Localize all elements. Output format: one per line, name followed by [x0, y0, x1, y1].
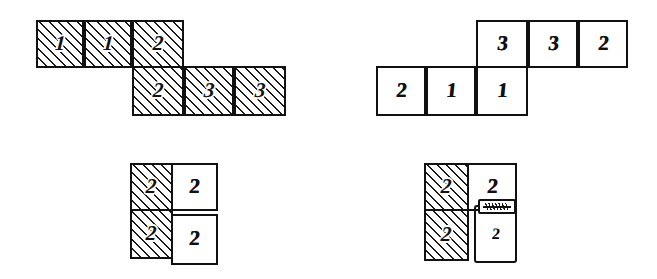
cell-top-right-r1c1: 1: [426, 66, 476, 116]
cell-value: 2: [597, 33, 610, 54]
cell-value: 2: [441, 176, 453, 197]
cell-bottom-right-r0c0: 2: [424, 163, 469, 211]
cell-top-right-r0c0: 3: [476, 20, 528, 68]
cell-value: 3: [496, 33, 509, 54]
cell-value: 2: [441, 224, 453, 245]
figure-bottom-right: 2 2 2 2: [424, 163, 534, 268]
cell-value: 2: [146, 223, 158, 244]
cell-top-left-r1c2: 3: [234, 66, 286, 116]
cell-bottom-left-r1c1-detached: 2: [171, 214, 218, 265]
cell-value: 2: [188, 176, 201, 197]
cell-value: 3: [254, 80, 266, 101]
cell-top-left-r0c0: 1: [36, 20, 84, 68]
cell-top-right-r1c2: 1: [476, 66, 528, 116]
hatch-tag-icon: [478, 199, 516, 214]
cell-value: 2: [152, 33, 164, 54]
cell-value: 2: [188, 228, 201, 249]
cell-value: 2: [152, 80, 164, 101]
cell-value: 3: [203, 80, 215, 101]
cell-top-right-r0c1: 3: [528, 20, 578, 68]
cell-top-left-r0c2: 2: [132, 20, 184, 68]
cell-value: 1: [54, 33, 66, 54]
figure-top-right: 3 3 2 2 1 1: [376, 20, 628, 120]
cell-top-right-r0c2: 2: [578, 20, 628, 68]
cell-value: 2: [146, 176, 158, 197]
cell-value: 1: [445, 80, 458, 101]
cell-value: 2: [491, 225, 501, 243]
figure-bottom-left: 2 2 2 2: [130, 163, 230, 268]
cell-top-left-r0c1: 1: [84, 20, 132, 68]
cell-top-right-r1c0: 2: [376, 66, 426, 116]
cell-bottom-left-r0c1: 2: [171, 163, 218, 211]
figure-top-left: 1 1 2 2 3 3: [36, 20, 286, 120]
cell-value: 2: [395, 80, 408, 101]
cell-value: 1: [102, 33, 114, 54]
cell-bottom-left-r1c0: 2: [130, 209, 173, 259]
cell-top-left-r1c1: 3: [184, 66, 234, 116]
cell-value: 2: [486, 176, 499, 197]
cell-bottom-left-r0c0: 2: [130, 163, 173, 211]
cell-value: 1: [496, 80, 509, 101]
cell-top-left-r1c0: 2: [132, 66, 184, 116]
cell-bottom-right-r1c0: 2: [424, 209, 469, 261]
cell-value: 3: [547, 33, 560, 54]
